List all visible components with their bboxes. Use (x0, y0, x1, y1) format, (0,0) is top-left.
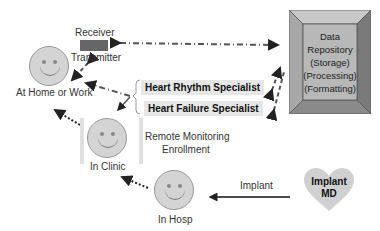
repo-line: (Storage) (310, 56, 350, 69)
heart-failure-specialist: Heart Failure Specialist (144, 101, 263, 116)
remote-monitoring-line2: Enrollment (162, 144, 210, 155)
implant-md-label: Implant MD (304, 176, 354, 200)
receiver-label: Receiver (75, 27, 114, 38)
implant-md-line2: MD (304, 188, 354, 200)
patient-clinic-face (87, 118, 127, 158)
repo-line: Repository (307, 43, 352, 56)
repo-line: Data (320, 30, 340, 43)
implant-arrow-label: Implant (240, 180, 273, 191)
data-repository: Data Repository (Storage) (Processing) (… (289, 10, 371, 114)
patient-home-face (29, 46, 69, 86)
home-label: At Home or Work (16, 87, 93, 98)
clinic-label: In Clinic (90, 161, 126, 172)
remote-monitoring-line1: Remote Monitoring (145, 131, 229, 142)
heart-rhythm-specialist: Heart Rhythm Specialist (141, 80, 264, 95)
patient-hosp-face (154, 170, 194, 210)
hosp-label: In Hosp (158, 214, 192, 225)
repo-line: (Processing) (303, 69, 356, 82)
transmitter-label: Transmitter (71, 52, 121, 63)
implant-md-line1: Implant (304, 176, 354, 188)
repo-line: (Formatting) (304, 82, 356, 95)
receiver-device (80, 40, 108, 51)
